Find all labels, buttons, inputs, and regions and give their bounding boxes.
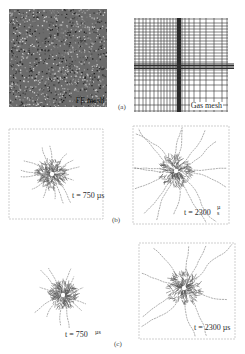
fracture-b-750-panel: t = 750 µs	[8, 128, 104, 220]
fracture-pattern-image	[25, 265, 115, 340]
row-b-sublabel: (b)	[112, 217, 120, 224]
time-label: t = 2300 µs	[194, 324, 230, 332]
fracture-pattern-image	[132, 125, 230, 225]
fracture-pattern-image	[8, 128, 104, 220]
fe-mesh-label: FE mesh	[76, 97, 104, 105]
time-unit-label: µs	[95, 329, 101, 335]
fracture-c-2300-panel: t = 2300 µs	[138, 242, 236, 340]
gas-mesh-panel: Gas mesh	[134, 18, 228, 112]
time-label: t = 2300	[184, 209, 211, 217]
fe-mesh-panel: FE mesh	[9, 9, 107, 107]
time-label: t = 750	[65, 331, 88, 339]
fracture-c-750-panel: t = 750 µs	[25, 265, 115, 340]
fe-mesh-image	[9, 9, 107, 107]
row-c-sublabel: (c)	[114, 341, 122, 348]
time-unit-label: µ s	[217, 204, 220, 216]
gas-mesh-image	[134, 18, 234, 112]
row-a-sublabel: (a)	[118, 104, 126, 111]
fracture-b-2300-panel: t = 2300 µ s	[132, 125, 230, 225]
time-label: t = 750 µs	[72, 192, 104, 200]
gas-mesh-label: Gas mesh	[190, 102, 223, 110]
